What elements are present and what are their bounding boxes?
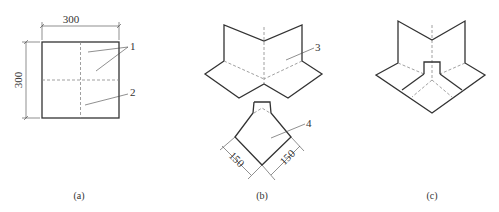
fold-line — [412, 80, 432, 97]
callout-2: 2 — [130, 86, 136, 98]
leader-line-2 — [85, 94, 128, 105]
fold-line — [264, 61, 302, 79]
figure-canvas: 300 300 1 2 (a) 3 4 150 — [0, 0, 499, 212]
callout-3: 3 — [315, 41, 321, 53]
dimension-label-height: 300 — [12, 71, 24, 88]
dimension-label-left: 150 — [227, 149, 248, 170]
leader-line-3 — [286, 48, 314, 60]
leader-line-4 — [271, 124, 305, 138]
caption-c: (c) — [426, 190, 437, 202]
extension-line — [220, 137, 235, 150]
seam-line-left — [402, 74, 424, 90]
panel-a: 300 300 1 2 (a) — [12, 13, 136, 202]
assembled-corner-outline — [376, 21, 485, 113]
fold-line — [254, 108, 270, 113]
panel-c: (c) — [376, 21, 485, 202]
dimension-label-right: 150 — [277, 147, 298, 168]
extension-line — [248, 165, 262, 179]
fold-line — [440, 63, 465, 74]
seam-line-right — [440, 74, 462, 90]
corner-piece-3-outline — [205, 25, 322, 98]
fold-line — [432, 80, 452, 97]
panel-b: 3 4 150 150 (b) — [205, 25, 322, 202]
dimension-label-width: 300 — [63, 13, 80, 25]
caption-a: (a) — [73, 190, 84, 202]
callout-4: 4 — [306, 117, 312, 129]
fold-line — [224, 61, 264, 79]
extension-line — [262, 165, 275, 180]
caption-b: (b) — [256, 190, 268, 202]
fold-line — [398, 63, 424, 74]
callout-1: 1 — [130, 40, 136, 52]
